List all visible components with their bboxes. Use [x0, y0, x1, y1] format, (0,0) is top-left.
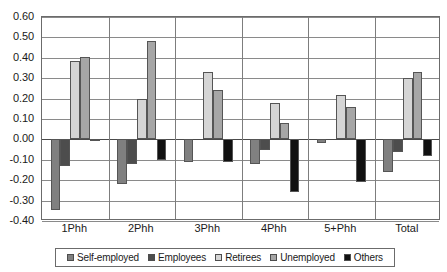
- bar: [117, 139, 127, 184]
- bar: [336, 95, 346, 140]
- bar: [137, 99, 147, 140]
- legend-label: Others: [354, 252, 383, 263]
- bar: [60, 139, 70, 166]
- x-tick-label-2phh: 2Phh: [128, 222, 154, 235]
- y-tick-label: 0.60: [13, 11, 34, 22]
- bar: [346, 107, 356, 140]
- y-tick-label: 0.50: [13, 31, 34, 42]
- x-axis: 1Phh2Phh3Phh4Phh5+PhhTotal: [41, 222, 440, 238]
- bar: [51, 139, 61, 209]
- bar: [213, 90, 223, 139]
- x-tick-label-5plusphh: 5+Phh: [324, 222, 356, 235]
- legend-label: Self-employed: [77, 252, 139, 263]
- legend-label: Unemployed: [280, 252, 335, 263]
- x-tick-label-total: Total: [395, 222, 418, 235]
- bar: [127, 139, 137, 163]
- y-tick-label: -0.20: [9, 174, 34, 185]
- bar: [290, 139, 300, 192]
- legend-swatch-icon: [215, 254, 222, 261]
- bar: [260, 139, 270, 149]
- bar: [250, 139, 260, 163]
- bar: [203, 72, 213, 139]
- legend-swatch-icon: [148, 254, 155, 261]
- y-axis: 0.600.500.400.300.200.100.00-0.10-0.20-0…: [0, 16, 38, 220]
- x-tick-label-3phh: 3Phh: [194, 222, 220, 235]
- x-tick-label-1phh: 1Phh: [61, 222, 87, 235]
- bar: [403, 78, 413, 139]
- bar: [413, 72, 423, 139]
- legend-swatch-icon: [67, 254, 74, 261]
- bar: [270, 103, 280, 140]
- legend-item[interactable]: Others: [344, 252, 383, 263]
- bar: [280, 123, 290, 139]
- bar: [423, 139, 433, 155]
- bar: [70, 61, 80, 140]
- y-tick-label: 0.10: [13, 113, 34, 124]
- plot-area: [41, 16, 440, 220]
- bar: [90, 139, 100, 141]
- y-tick-label: 0.30: [13, 72, 34, 83]
- y-tick-label: -0.40: [9, 215, 34, 226]
- y-tick-label: 0.40: [13, 51, 34, 62]
- bar: [393, 139, 403, 151]
- chart-legend: Self-employedEmployeesRetireesUnemployed…: [55, 248, 395, 267]
- bar: [157, 139, 167, 159]
- legend-label: Retirees: [225, 252, 261, 263]
- bar: [223, 139, 233, 161]
- y-tick-label: 0.20: [13, 92, 34, 103]
- bar: [356, 139, 366, 182]
- bar-chart: 0.600.500.400.300.200.100.00-0.10-0.20-0…: [0, 0, 447, 272]
- bar: [147, 41, 157, 139]
- bar: [317, 139, 327, 143]
- bars-layer: [42, 17, 439, 219]
- y-tick-label: -0.10: [9, 153, 34, 164]
- bar: [383, 139, 393, 172]
- legend-swatch-icon: [344, 254, 351, 261]
- legend-item[interactable]: Unemployed: [270, 252, 335, 263]
- legend-item[interactable]: Self-employed: [67, 252, 139, 263]
- legend-item[interactable]: Retirees: [215, 252, 261, 263]
- bar: [184, 139, 194, 161]
- legend-item[interactable]: Employees: [148, 252, 206, 263]
- legend-label: Employees: [158, 252, 206, 263]
- bar: [80, 57, 90, 140]
- y-tick-label: -0.30: [9, 194, 34, 205]
- x-tick-label-4phh: 4Phh: [261, 222, 287, 235]
- y-tick-label: 0.00: [13, 133, 34, 144]
- legend-swatch-icon: [270, 254, 277, 261]
